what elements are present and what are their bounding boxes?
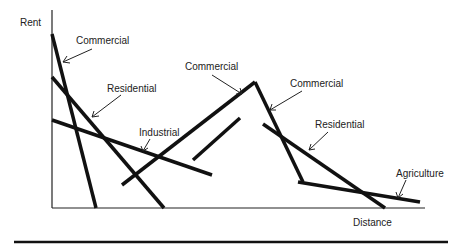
arrow-residential-1: [92, 95, 121, 117]
label-commercial-2: Commercial: [185, 61, 238, 72]
bid-rent-diagram: [0, 0, 460, 248]
arrow-commercial-3: [270, 91, 302, 110]
label-agriculture: Agriculture: [396, 168, 444, 179]
curve-agriculture: [298, 182, 420, 202]
curve-commercial-secondary-right: [255, 82, 303, 182]
label-residential-1: Residential: [107, 83, 156, 94]
curve-industrial: [52, 120, 212, 175]
label-commercial-3: Commercial: [290, 78, 343, 89]
arrow-commercial-2: [212, 75, 242, 94]
label-residential-2: Residential: [315, 119, 364, 130]
label-industrial: Industrial: [139, 127, 180, 138]
label-rent: Rent: [20, 17, 41, 28]
label-distance: Distance: [353, 217, 392, 228]
curve-residential-central: [52, 77, 164, 208]
arrow-residential-2: [309, 132, 328, 150]
label-commercial-1: Commercial: [76, 35, 129, 46]
arrow-commercial-1: [63, 49, 92, 62]
curve-residential-secondary: [263, 124, 385, 208]
